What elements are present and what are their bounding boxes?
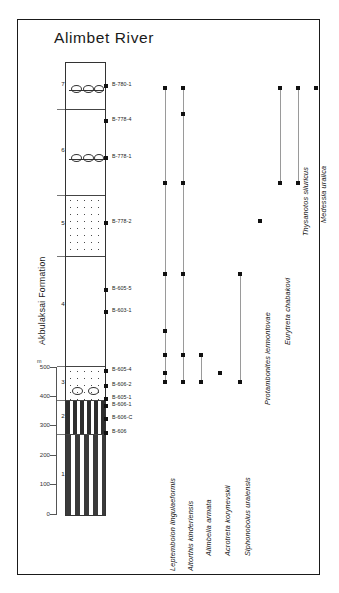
sample-marker [104,369,108,373]
sample-marker [104,431,108,435]
sample-marker [104,119,108,123]
lithology-bed-3 [66,367,105,401]
unit-boundary-tick [57,400,65,401]
scale-tick [50,396,57,397]
occurrence-marker [181,86,185,90]
unit-boundary-tick [57,366,65,367]
occurrence-marker [163,371,167,375]
sample-label: B-605-1 [112,394,132,400]
lithology-bed-2 [66,401,105,435]
scale-tick [50,367,57,368]
scale-tick-label: 0 [28,510,50,517]
occurrence-marker [238,272,242,276]
occurrence-marker [181,272,185,276]
occurrence-marker [163,181,167,185]
unit-boundary-tick [57,195,65,196]
occurrence-marker [296,86,300,90]
range-bar [240,274,241,382]
scale-tick-label: 500 [28,363,50,370]
occurrence-marker [181,353,185,357]
lithologic-column [65,62,106,516]
occurrence-marker [163,329,167,333]
occurrence-marker [163,272,167,276]
lithology-bed-1 [66,435,105,516]
occurrence-marker [199,353,203,357]
pebble-icon [83,154,94,162]
occurrence-marker [181,112,185,116]
occurrence-marker [238,380,242,384]
sample-marker [104,288,108,292]
scale-tick-label: 200 [28,451,50,458]
species-name-label: Altorthis kinderlensis [186,501,195,571]
species-name-label: Alimbella armata [204,499,213,556]
unit-number-6: 6 [58,146,68,153]
occurrence-marker [278,181,282,185]
sample-marker [104,397,108,401]
pebble-icon [71,154,82,162]
occurrence-marker [258,219,262,223]
occurrence-marker [163,380,167,384]
range-bar [183,88,184,382]
species-name-label: Medessia uralica [319,166,328,223]
range-bar [201,355,202,382]
scale-spine [56,367,57,514]
pebble-icon [94,85,104,93]
scale-tick-label: 100 [28,480,50,487]
unit-boundary-tick [57,434,65,435]
unit-number-1: 1 [58,470,68,477]
occurrence-marker [163,353,167,357]
range-bar [280,88,281,183]
species-name-label: Thysanotos siluricus [301,167,310,236]
scale-tick-label: 300 [28,421,50,428]
lithology-bed-5 [66,196,105,257]
sample-marker [104,310,108,314]
scale-tick-label: 400 [28,392,50,399]
range-bar [165,88,166,382]
sample-marker [104,156,108,160]
sample-label: B-778-2 [112,218,132,224]
sample-marker [104,221,108,225]
unit-number-3: 3 [58,378,68,385]
sample-label: B-606-1 [112,401,132,407]
sample-label: B-606 [112,428,127,434]
unit-number-5: 5 [58,219,68,226]
sample-label: B-606-2 [112,381,132,387]
range-bar [298,88,299,183]
species-name-label: Leptembolon lingulaeformis [168,478,177,571]
occurrence-marker [314,86,318,90]
lithology-bed-7 [66,63,105,110]
occurrence-marker [163,86,167,90]
pebble-icon [88,387,99,395]
pebble-icon [94,154,104,162]
pebble-icon [72,387,83,395]
sample-label: B-778-1 [112,153,132,159]
unit-boundary-tick [57,109,65,110]
sample-marker [104,84,108,88]
lithology-bed-4 [66,257,105,367]
species-name-label: Siphonobolus uralensis [243,477,252,556]
sample-label: B-605-5 [112,285,132,291]
occurrence-marker [296,181,300,185]
scale-tick [50,484,57,485]
occurrence-marker [278,86,282,90]
occurrence-marker [181,380,185,384]
species-name-label: Acrotreta korynevskii [223,485,232,556]
formation-label: Akbulaksai Formation [37,256,47,345]
scale-tick [50,425,57,426]
scale-tick [50,514,57,515]
sample-marker [104,384,108,388]
pebble-icon [71,85,82,93]
sample-label: B-778-4 [112,116,132,122]
sample-label: B-605-4 [112,366,132,372]
occurrence-marker [181,181,185,185]
sample-marker [104,417,108,421]
unit-boundary-tick [57,256,65,257]
species-name-label: Eurytreta chabakovi [283,278,292,345]
sample-label: B-606-C [112,414,132,420]
unit-number-2: 2 [58,412,68,419]
occurrence-marker [199,380,203,384]
sample-label: B-780-1 [112,81,132,87]
species-name-label: Protambonites lermontovae [263,312,272,405]
figure-title: Alimbet River [54,29,154,47]
occurrence-marker [218,371,222,375]
